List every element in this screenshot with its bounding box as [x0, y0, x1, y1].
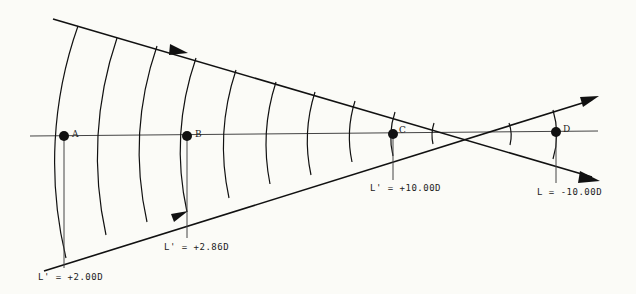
upper-ray: [53, 19, 592, 177]
point-label-A: A: [71, 129, 79, 139]
arrow-icon: [578, 171, 600, 183]
arrow-icon: [169, 44, 188, 55]
vergence-diagram: A B C D L' = +2.00D L' = +2.86D L' = +10…: [0, 0, 636, 294]
annotation-C: L' = +10.00D: [370, 183, 441, 193]
point-A: [59, 131, 69, 141]
point-label-D: D: [563, 124, 570, 134]
point-C: [388, 129, 398, 139]
annotation-B: L' = +2.86D: [164, 242, 229, 252]
point-label-C: C: [399, 125, 406, 135]
point-D: [551, 127, 561, 137]
annotation-D: L = -10.00D: [537, 187, 602, 197]
point-B: [182, 131, 192, 141]
point-label-B: B: [195, 129, 202, 139]
arrow-icon: [580, 96, 599, 107]
optical-axis: [30, 131, 598, 136]
annotation-A: L' = +2.00D: [38, 272, 103, 282]
wavefronts: [55, 26, 557, 258]
arrow-icon: [171, 211, 188, 222]
